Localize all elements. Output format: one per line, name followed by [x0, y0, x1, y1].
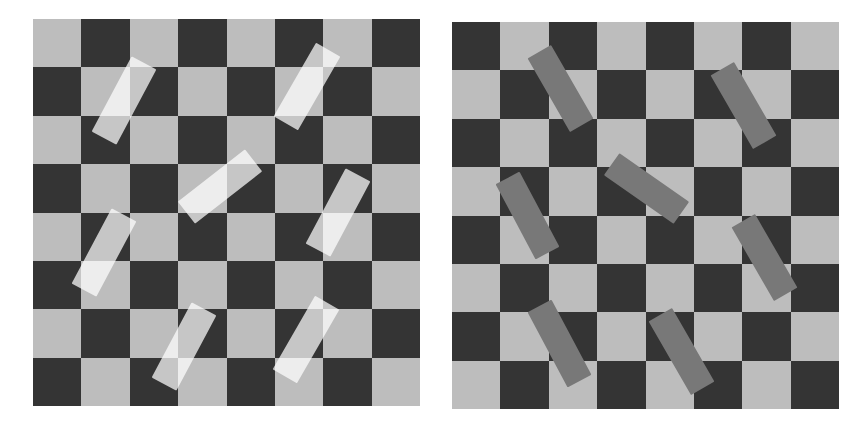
- light-square: [791, 216, 839, 264]
- light-square: [500, 119, 548, 167]
- dark-square: [81, 19, 129, 67]
- dark-square: [33, 67, 81, 115]
- light-square: [178, 261, 226, 309]
- dark-square: [452, 119, 500, 167]
- dark-square: [646, 216, 694, 264]
- dark-square: [33, 358, 81, 406]
- dark-square: [227, 261, 275, 309]
- light-square: [452, 70, 500, 118]
- dark-square: [372, 116, 420, 164]
- dark-square: [372, 19, 420, 67]
- light-square: [549, 264, 597, 312]
- light-square: [372, 261, 420, 309]
- light-square: [452, 361, 500, 409]
- light-square: [227, 309, 275, 357]
- light-square: [81, 358, 129, 406]
- dark-square: [742, 22, 790, 70]
- dark-square: [372, 309, 420, 357]
- light-square: [323, 116, 371, 164]
- dark-square: [452, 22, 500, 70]
- dark-square: [227, 358, 275, 406]
- light-square: [275, 164, 323, 212]
- dark-square: [791, 264, 839, 312]
- light-square: [597, 216, 645, 264]
- light-square: [694, 119, 742, 167]
- light-square: [178, 67, 226, 115]
- dark-square: [130, 164, 178, 212]
- dark-square: [742, 312, 790, 360]
- light-square: [33, 19, 81, 67]
- dark-square: [323, 67, 371, 115]
- right-checkerboard: [452, 22, 839, 409]
- light-square: [791, 22, 839, 70]
- light-square: [791, 312, 839, 360]
- light-square: [372, 67, 420, 115]
- light-square: [549, 167, 597, 215]
- light-square: [646, 264, 694, 312]
- dark-square: [694, 264, 742, 312]
- dark-square: [372, 213, 420, 261]
- dark-square: [178, 19, 226, 67]
- light-square: [130, 213, 178, 261]
- left-checkerboard: [33, 19, 420, 406]
- dark-square: [694, 167, 742, 215]
- dark-square: [130, 261, 178, 309]
- dark-square: [452, 312, 500, 360]
- dark-square: [646, 22, 694, 70]
- dark-square: [227, 67, 275, 115]
- light-square: [452, 167, 500, 215]
- dark-square: [323, 358, 371, 406]
- dark-square: [791, 167, 839, 215]
- dark-square: [597, 264, 645, 312]
- light-square: [33, 213, 81, 261]
- light-square: [81, 164, 129, 212]
- dark-square: [646, 119, 694, 167]
- light-square: [694, 312, 742, 360]
- dark-square: [33, 164, 81, 212]
- light-square: [791, 119, 839, 167]
- dark-square: [178, 116, 226, 164]
- light-square: [130, 116, 178, 164]
- dark-square: [81, 309, 129, 357]
- light-square: [597, 22, 645, 70]
- light-square: [227, 213, 275, 261]
- light-square: [694, 216, 742, 264]
- dark-square: [500, 361, 548, 409]
- light-square: [452, 264, 500, 312]
- dark-square: [791, 70, 839, 118]
- dark-square: [178, 213, 226, 261]
- dark-square: [323, 261, 371, 309]
- light-square: [33, 309, 81, 357]
- dark-square: [597, 70, 645, 118]
- light-square: [597, 312, 645, 360]
- light-square: [742, 167, 790, 215]
- light-square: [227, 19, 275, 67]
- light-square: [742, 361, 790, 409]
- dark-square: [791, 361, 839, 409]
- dark-square: [452, 216, 500, 264]
- light-square: [372, 358, 420, 406]
- dark-square: [597, 361, 645, 409]
- light-square: [33, 116, 81, 164]
- light-square: [646, 70, 694, 118]
- light-square: [372, 164, 420, 212]
